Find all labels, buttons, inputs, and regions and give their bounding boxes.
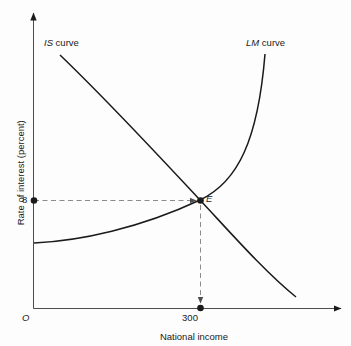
y-tick-marker-8 <box>31 197 38 204</box>
lm-curve-label: LM curve <box>246 38 285 48</box>
x-axis-tick-label-300: 300 <box>182 313 198 323</box>
lm-curve-label-italic: LM <box>246 37 259 48</box>
x-tick-marker-300 <box>197 305 204 312</box>
y-axis-title: Rate of interest (percent) <box>16 103 26 243</box>
is-lm-figure: IS curve LM curve E 8 300 O National inc… <box>0 0 351 346</box>
is-curve-label-italic: IS <box>44 37 53 48</box>
lm-curve <box>34 54 265 243</box>
equilibrium-point-label: E <box>206 194 212 204</box>
is-curve-label-roman: curve <box>53 37 79 48</box>
x-axis-title: National income <box>160 332 228 342</box>
plot-canvas <box>0 0 351 346</box>
is-curve-label: IS curve <box>44 38 79 48</box>
origin-label: O <box>22 313 29 323</box>
lm-curve-label-roman: curve <box>259 37 285 48</box>
equilibrium-point-marker <box>197 197 204 204</box>
